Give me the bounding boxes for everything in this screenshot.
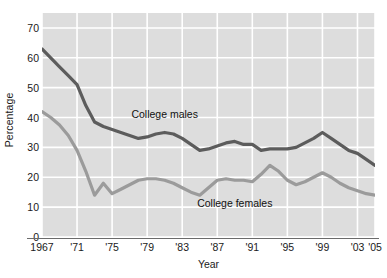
y-tick-label: 40 [27,112,39,124]
series-lines [42,49,375,195]
y-tick-label: 50 [27,82,39,94]
x-tick-label: '71 [70,241,84,253]
x-tick-label: '87 [210,241,224,253]
x-tick-label: '79 [140,241,154,253]
x-axis-title: Year [42,258,375,270]
series-label-college-females: College females [197,197,272,209]
x-tick-label: '99 [316,241,330,253]
x-tick-label: '75 [105,241,119,253]
y-tick-label: 70 [27,22,39,34]
x-axis-line [27,238,379,239]
x-tick-label: '83 [175,241,189,253]
y-tick-label: 10 [27,201,39,213]
y-tick-label: 60 [27,52,39,64]
y-tick-label: 20 [27,171,39,183]
x-tick-label: 1967 [30,241,53,253]
y-axis-tick-labels: 010203040506070 [18,0,42,278]
x-tick-label: '95 [281,241,295,253]
y-axis-title-text: Percentage [3,93,15,148]
line-chart: Percentage 010203040506070 College males… [0,0,387,278]
series-label-college-males: College males [131,108,198,120]
series-line-1 [42,112,375,196]
x-tick-label: '91 [245,241,259,253]
y-tick-label: 30 [27,141,39,153]
x-axis-tick-labels: 1967'71'75'79'83'87'91'95'99'03'05 [0,241,387,257]
x-tick-label: '05 [368,241,382,253]
y-axis-title: Percentage [0,0,18,240]
x-tick-label: '03 [351,241,365,253]
